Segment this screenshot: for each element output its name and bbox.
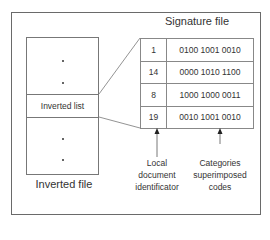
id-arrow-head-icon — [155, 128, 160, 134]
annotation-line: identificator — [128, 181, 186, 193]
annotation-line: Local — [128, 157, 186, 169]
code-column-annotation: Categories superimposed codes — [182, 157, 258, 193]
annotation-line: superimposed — [182, 169, 258, 181]
annotation-line: Categories — [182, 157, 258, 169]
connector-bottom-line — [99, 117, 140, 128]
id-column-annotation: Local document identificator — [128, 157, 186, 193]
connector-top-line — [99, 38, 140, 94]
annotation-line: codes — [182, 181, 258, 193]
annotation-line: document — [128, 169, 186, 181]
code-arrow-head-icon — [218, 128, 223, 134]
